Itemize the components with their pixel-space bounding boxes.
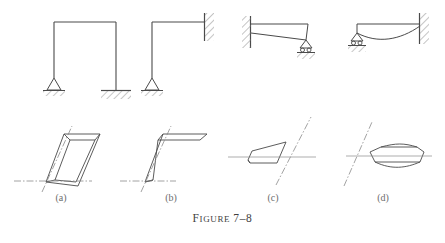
b-pin-hatch bbox=[141, 91, 163, 96]
d-diagonal-axis bbox=[344, 122, 372, 186]
figure-caption: FIGURE 7–8 bbox=[0, 212, 445, 224]
panel-d-deflection-shape bbox=[370, 144, 424, 167]
c-wall-hatch bbox=[242, 16, 251, 48]
c-diagonal-axis bbox=[276, 117, 311, 185]
a-fixed-base-support bbox=[101, 91, 131, 100]
a-base-hatch bbox=[101, 91, 131, 99]
b-axis-lines bbox=[120, 126, 176, 192]
panel-a-frame bbox=[54, 22, 116, 90]
caption-prefix-initial: F bbox=[193, 212, 200, 224]
c-beam-end bbox=[306, 24, 308, 40]
c-roller-support bbox=[297, 40, 315, 59]
b-3d-outer bbox=[145, 134, 207, 182]
panel-c-deflection-shape bbox=[248, 142, 286, 163]
c-wedge bbox=[248, 142, 286, 163]
figure-drawing bbox=[0, 0, 445, 243]
figure-page: (a) (b) (c) (d) FIGURE 7–8 bbox=[0, 0, 445, 243]
c-deflected-beam bbox=[251, 33, 306, 40]
a-axis-lines bbox=[14, 126, 92, 192]
b-wall-hatch bbox=[205, 13, 214, 41]
panel-b-buckled-shape bbox=[145, 134, 207, 182]
d-wall-hatch bbox=[420, 13, 429, 44]
panel-c-frame bbox=[242, 16, 315, 59]
panel-a-buckled-shape bbox=[46, 134, 100, 186]
panel-label-c: (c) bbox=[258, 192, 288, 203]
a-pin-hatch bbox=[43, 91, 65, 96]
d-lens-bulge-lower bbox=[375, 162, 420, 167]
b-fixed-wall-support bbox=[205, 13, 215, 41]
c-wedge-edge bbox=[248, 160, 250, 163]
d-deflected-beam bbox=[357, 26, 420, 39]
caption-number: 7–8 bbox=[233, 212, 252, 224]
panel-label-b: (b) bbox=[156, 192, 186, 203]
c-fixed-wall-support bbox=[242, 16, 251, 48]
d-fixed-wall-support bbox=[420, 13, 430, 44]
b-pin-support bbox=[141, 78, 163, 96]
c-axis-lines bbox=[228, 117, 316, 185]
caption-prefix-rest: IGURE bbox=[200, 214, 231, 224]
d-roller-hatch bbox=[348, 46, 366, 52]
a-pin-support bbox=[43, 78, 65, 96]
panel-label-a: (a) bbox=[46, 192, 76, 203]
panel-label-d: (d) bbox=[368, 192, 398, 203]
panel-d-frame bbox=[348, 13, 429, 52]
a-3d-outer bbox=[46, 134, 100, 186]
d-axis-lines bbox=[344, 122, 432, 186]
d-lens bbox=[370, 147, 424, 162]
c-roller-hatch bbox=[297, 53, 315, 59]
panel-b-frame bbox=[152, 22, 204, 78]
